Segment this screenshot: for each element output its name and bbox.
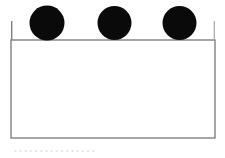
container-rectangle	[11, 40, 215, 138]
circle-group	[30, 6, 197, 41]
circle-3	[163, 6, 197, 40]
circle-2	[98, 6, 132, 40]
circle-1	[30, 6, 65, 41]
figure-caption: • • • • • • • • • • • • • • • •	[14, 146, 204, 156]
diagram-canvas	[0, 0, 225, 158]
figure-root: • • • • • • • • • • • • • • • •	[0, 0, 225, 158]
